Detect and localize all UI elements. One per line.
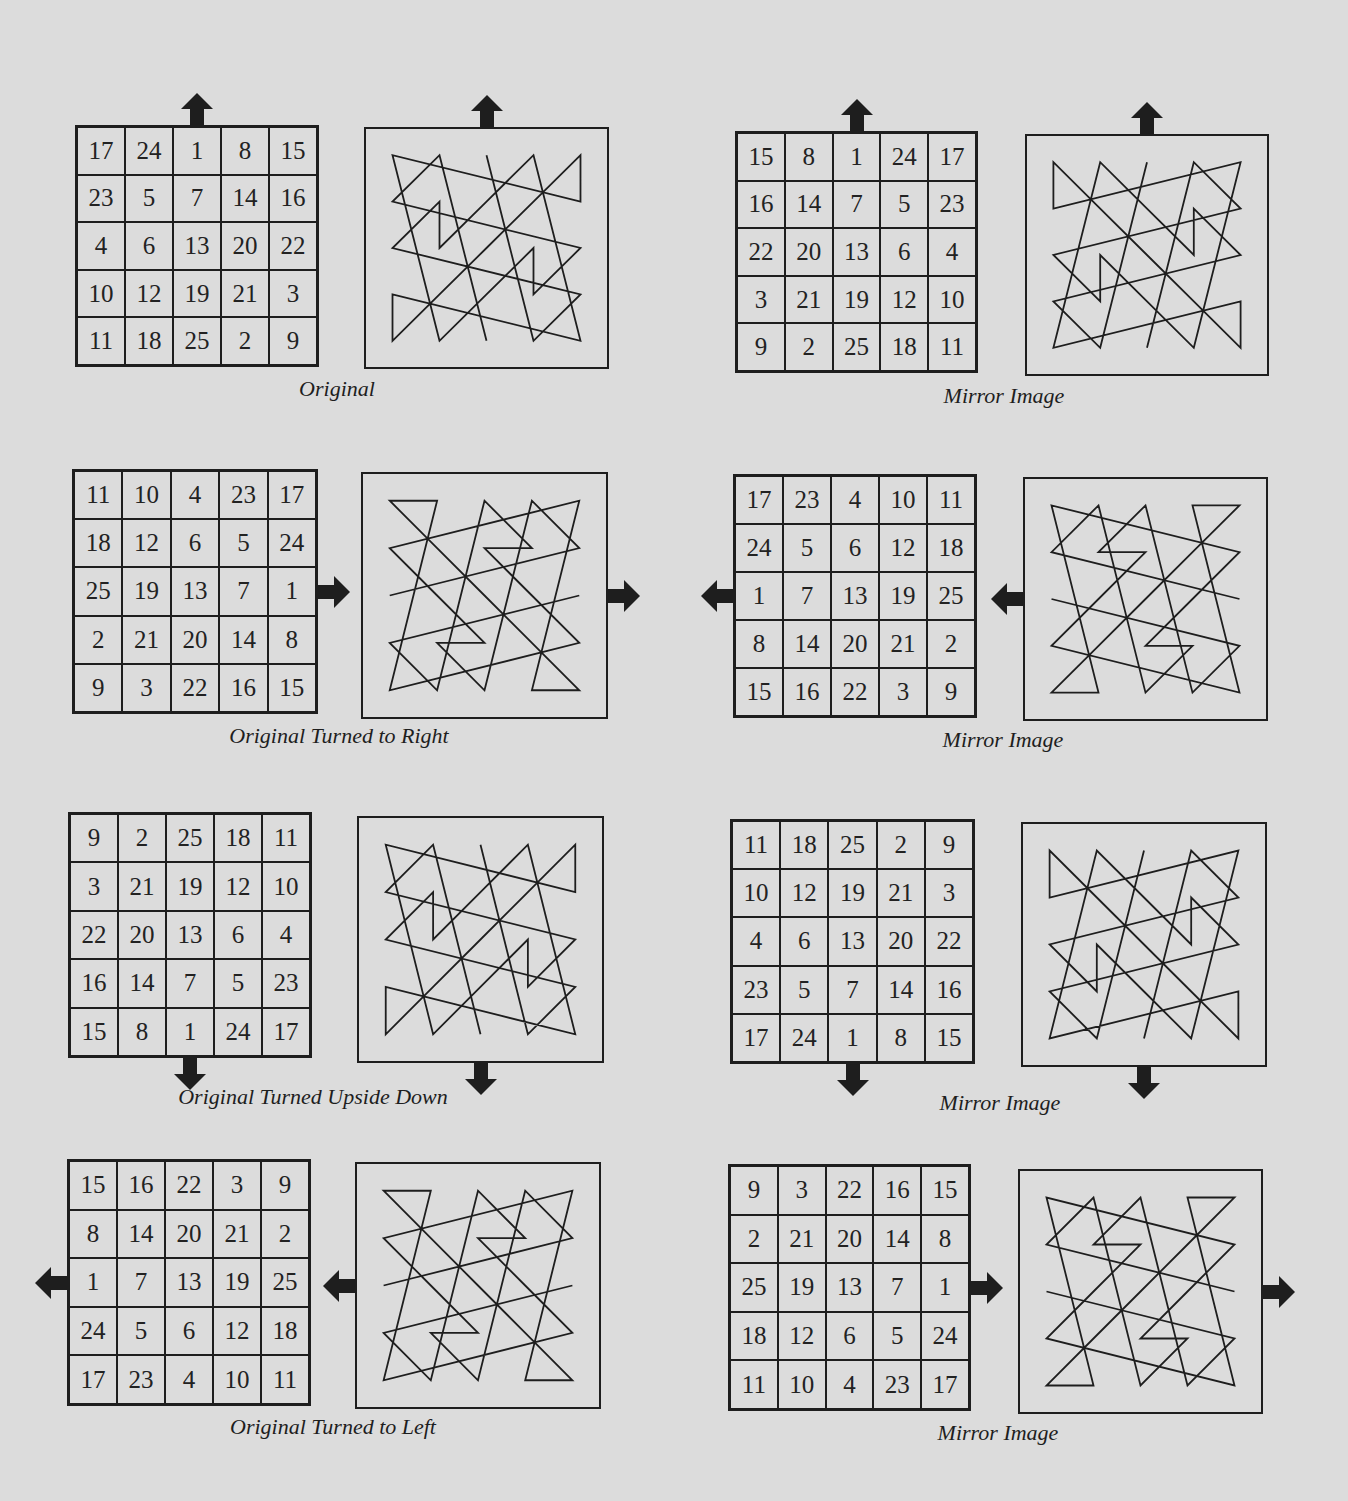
grid-cell: 8	[69, 1210, 117, 1259]
grid-cell: 12	[213, 1307, 261, 1356]
grid-cell: 18	[74, 519, 122, 567]
arrow-down-icon	[1126, 1065, 1162, 1101]
grid-cell: 16	[117, 1161, 165, 1210]
grid-cell: 18	[880, 323, 928, 371]
grid-cell: 2	[730, 1215, 778, 1264]
grid-cell: 4	[165, 1355, 213, 1404]
grid-cell: 23	[77, 175, 125, 223]
grid-cell: 8	[268, 616, 316, 664]
grid-cell: 11	[730, 1360, 778, 1409]
grid-cell: 15	[921, 1166, 969, 1215]
grid-cell: 3	[213, 1161, 261, 1210]
grid-cell: 5	[117, 1307, 165, 1356]
line-diagram-turned-right	[361, 472, 608, 719]
grid-cell: 16	[269, 175, 317, 223]
magic-square-turned-right-mirror: 1723410112456121817131925814202121516223…	[733, 474, 977, 718]
grid-cell: 25	[927, 572, 975, 620]
grid-cell: 10	[732, 869, 780, 917]
grid-cell: 11	[77, 317, 125, 365]
grid-cell: 19	[833, 276, 881, 324]
magic-line-path	[359, 818, 602, 1061]
grid-cell: 11	[262, 814, 310, 862]
grid-cell: 19	[879, 572, 927, 620]
grid-cell: 16	[219, 664, 267, 712]
grid-cell: 10	[122, 471, 170, 519]
grid-cell: 4	[732, 917, 780, 965]
grid-cell: 7	[833, 181, 881, 229]
grid-cell: 24	[735, 524, 783, 572]
grid-cell: 8	[921, 1215, 969, 1264]
grid-cell: 8	[735, 620, 783, 668]
arrow-right-icon	[1261, 1274, 1297, 1310]
magic-line-path	[366, 129, 607, 367]
caption-mirror: Mirror Image	[944, 383, 1065, 409]
grid-cell: 12	[879, 524, 927, 572]
grid-cell: 3	[269, 270, 317, 318]
grid-cell: 21	[122, 616, 170, 664]
grid-cell: 17	[77, 127, 125, 175]
grid-cell: 4	[171, 471, 219, 519]
arrow-up-icon	[179, 91, 215, 127]
grid-cell: 22	[737, 228, 785, 276]
grid-cell: 6	[831, 524, 879, 572]
grid-cell: 17	[732, 1014, 780, 1062]
grid-cell: 20	[877, 917, 925, 965]
grid-cell: 6	[165, 1307, 213, 1356]
grid-cell: 14	[785, 181, 833, 229]
grid-cell: 15	[925, 1014, 973, 1062]
grid-cell: 16	[873, 1166, 921, 1215]
grid-cell: 24	[214, 1008, 262, 1056]
grid-cell: 22	[925, 917, 973, 965]
arrow-right-icon	[606, 578, 642, 614]
grid-cell: 20	[165, 1210, 213, 1259]
grid-cell: 15	[735, 668, 783, 716]
grid-cell: 21	[118, 862, 166, 910]
caption-upside-down: Original Turned Upside Down	[178, 1084, 448, 1110]
line-diagram-upside-down-mirror	[1021, 822, 1267, 1067]
arrow-down-icon	[172, 1056, 208, 1092]
grid-cell: 21	[785, 276, 833, 324]
magic-line-path	[1023, 824, 1265, 1065]
grid-cell: 3	[70, 862, 118, 910]
grid-cell: 14	[873, 1215, 921, 1264]
grid-cell: 22	[831, 668, 879, 716]
grid-cell: 4	[262, 911, 310, 959]
grid-cell: 14	[219, 616, 267, 664]
grid-cell: 12	[780, 869, 828, 917]
magic-square-original: 1724181523571416461320221012192131118252…	[75, 125, 319, 367]
grid-cell: 25	[828, 821, 876, 869]
grid-cell: 6	[171, 519, 219, 567]
grid-cell: 18	[927, 524, 975, 572]
grid-cell: 9	[737, 323, 785, 371]
caption-turned-left: Original Turned to Left	[230, 1414, 436, 1440]
grid-cell: 24	[921, 1312, 969, 1361]
magic-line-path	[363, 474, 606, 717]
grid-cell: 18	[780, 821, 828, 869]
grid-cell: 14	[118, 959, 166, 1007]
grid-cell: 4	[928, 228, 976, 276]
grid-cell: 15	[69, 1161, 117, 1210]
grid-cell: 6	[880, 228, 928, 276]
grid-cell: 9	[925, 821, 973, 869]
grid-cell: 19	[213, 1258, 261, 1307]
magic-line-path	[1020, 1171, 1261, 1412]
grid-cell: 8	[118, 1008, 166, 1056]
grid-cell: 5	[214, 959, 262, 1007]
arrow-up-icon	[839, 97, 875, 133]
grid-cell: 11	[74, 471, 122, 519]
magic-line-path	[1027, 136, 1267, 374]
grid-cell: 1	[173, 127, 221, 175]
grid-cell: 14	[117, 1210, 165, 1259]
grid-cell: 19	[173, 270, 221, 318]
grid-cell: 21	[877, 869, 925, 917]
grid-cell: 15	[70, 1008, 118, 1056]
grid-cell: 11	[732, 821, 780, 869]
grid-cell: 12	[125, 270, 173, 318]
grid-cell: 21	[221, 270, 269, 318]
arrow-right-icon	[969, 1270, 1005, 1306]
caption-turned-right-mirror: Mirror Image	[943, 727, 1064, 753]
grid-cell: 21	[879, 620, 927, 668]
grid-cell: 13	[171, 567, 219, 615]
grid-cell: 14	[877, 966, 925, 1014]
grid-cell: 23	[732, 966, 780, 1014]
